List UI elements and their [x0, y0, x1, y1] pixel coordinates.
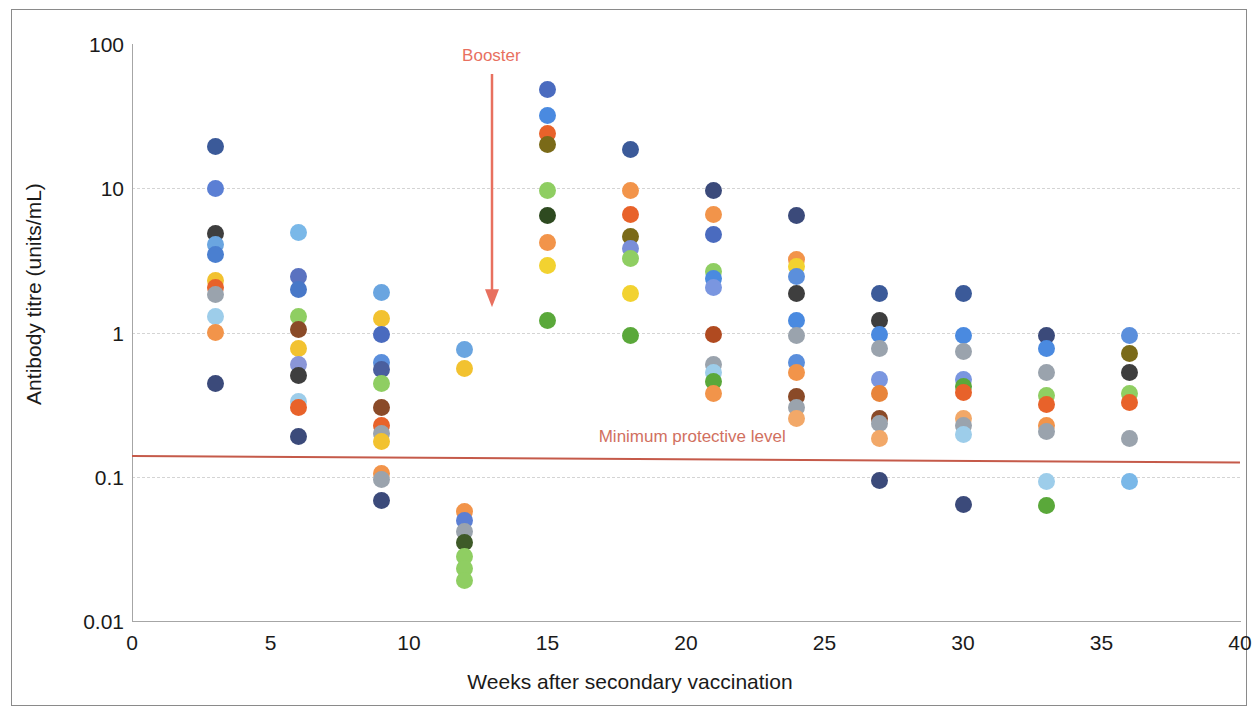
data-point — [955, 496, 972, 513]
booster-arrow-icon — [477, 74, 507, 307]
data-point — [871, 430, 888, 447]
gridline — [132, 477, 1240, 478]
data-point — [207, 180, 224, 197]
data-point — [955, 343, 972, 360]
data-point — [1038, 423, 1055, 440]
data-point — [290, 281, 307, 298]
data-point — [207, 324, 224, 341]
x-tick-label: 25 — [795, 632, 855, 653]
data-point — [705, 206, 722, 223]
data-point — [788, 207, 805, 224]
y-tick-label: 0.01 — [83, 611, 124, 632]
data-point — [622, 141, 639, 158]
data-point — [622, 285, 639, 302]
x-tick-label: 40 — [1210, 632, 1260, 653]
data-point — [955, 426, 972, 443]
data-point — [373, 433, 390, 450]
data-point — [955, 327, 972, 344]
data-point — [373, 471, 390, 488]
data-point — [788, 327, 805, 344]
data-point — [207, 286, 224, 303]
data-point — [290, 399, 307, 416]
data-point — [622, 327, 639, 344]
data-point — [539, 257, 556, 274]
x-tick-label: 15 — [518, 632, 578, 653]
data-point — [539, 81, 556, 98]
data-point — [788, 268, 805, 285]
data-point — [373, 284, 390, 301]
data-point — [871, 340, 888, 357]
booster-annotation-label: Booster — [462, 46, 521, 66]
y-tick-label: 100 — [89, 34, 124, 55]
data-point — [373, 310, 390, 327]
data-point — [788, 364, 805, 381]
data-point — [788, 285, 805, 302]
data-point — [1038, 340, 1055, 357]
data-point — [1121, 327, 1138, 344]
x-tick-label: 0 — [102, 632, 162, 653]
data-point — [539, 234, 556, 251]
data-point — [207, 246, 224, 263]
data-point — [539, 312, 556, 329]
data-point — [290, 321, 307, 338]
x-tick-label: 35 — [1072, 632, 1132, 653]
y-tick-label: 0.1 — [95, 467, 124, 488]
x-tick-label: 30 — [933, 632, 993, 653]
data-point — [539, 107, 556, 124]
data-point — [539, 207, 556, 224]
data-point — [871, 472, 888, 489]
data-point — [456, 572, 473, 589]
data-point — [290, 340, 307, 357]
minimum-protective-level-line — [132, 455, 1240, 464]
data-point — [539, 182, 556, 199]
data-point — [207, 308, 224, 325]
data-point — [290, 224, 307, 241]
data-point — [1121, 394, 1138, 411]
data-point — [539, 136, 556, 153]
minimum-protective-level-label: Minimum protective level — [599, 427, 786, 447]
data-point — [788, 312, 805, 329]
data-point — [373, 326, 390, 343]
figure-border — [11, 9, 1247, 706]
data-point — [1121, 473, 1138, 490]
x-axis-line — [132, 621, 1241, 622]
data-point — [788, 410, 805, 427]
data-point — [705, 226, 722, 243]
y-tick-label: 10 — [101, 178, 124, 199]
data-point — [373, 399, 390, 416]
gridline — [132, 188, 1240, 189]
x-axis-title: Weeks after secondary vaccination — [0, 670, 1260, 694]
data-point — [871, 385, 888, 402]
x-tick-label: 20 — [656, 632, 716, 653]
data-point — [1121, 430, 1138, 447]
x-tick-label: 10 — [379, 632, 439, 653]
data-point — [373, 375, 390, 392]
data-point — [456, 341, 473, 358]
data-point — [1121, 364, 1138, 381]
y-axis-line — [132, 44, 133, 622]
data-point — [290, 428, 307, 445]
chart-figure: 1001010.10.01 0510152025303540 Antibody … — [0, 0, 1260, 717]
data-point — [1038, 473, 1055, 490]
data-point — [1038, 364, 1055, 381]
data-point — [705, 326, 722, 343]
data-point — [373, 492, 390, 509]
data-point — [207, 138, 224, 155]
y-tick-label: 1 — [112, 323, 124, 344]
data-point — [705, 182, 722, 199]
data-point — [871, 285, 888, 302]
data-point — [705, 279, 722, 296]
y-axis-title: Antibody titre (units/mL) — [22, 84, 46, 504]
data-point — [622, 182, 639, 199]
x-tick-label: 5 — [241, 632, 301, 653]
data-point — [705, 385, 722, 402]
data-point — [622, 206, 639, 223]
data-point — [1038, 396, 1055, 413]
data-point — [1038, 497, 1055, 514]
data-point — [207, 375, 224, 392]
data-point — [622, 250, 639, 267]
data-point — [290, 367, 307, 384]
data-point — [456, 360, 473, 377]
data-point — [955, 285, 972, 302]
data-point — [955, 384, 972, 401]
